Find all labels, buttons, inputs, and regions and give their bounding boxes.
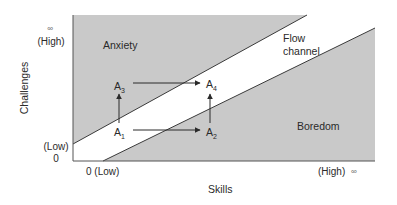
flow-label-line2: channel	[283, 45, 320, 57]
y-infinity-symbol: ∞	[47, 24, 53, 33]
anxiety-label: Anxiety	[103, 39, 138, 51]
y-high-label: (High)	[37, 36, 64, 47]
x-high-label: (High)	[318, 166, 345, 177]
boredom-label: Boredom	[297, 120, 340, 132]
x-low-label: 0 (Low)	[86, 166, 119, 177]
y-low-label: (Low)	[43, 141, 68, 152]
x-infinity-symbol: ∞	[351, 167, 357, 176]
flow-channel-diagram: Anxiety Flow channel Boredom A3 A1 A4 A2…	[0, 0, 397, 205]
y-zero-label: 0	[53, 153, 59, 164]
flow-label-line1: Flow	[283, 32, 306, 44]
x-axis-title: Skills	[208, 183, 233, 195]
y-axis-title: Challenges	[18, 62, 30, 115]
